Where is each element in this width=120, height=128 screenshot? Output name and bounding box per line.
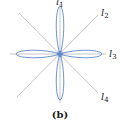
- label-l1: l1: [56, 0, 64, 9]
- rose-petals: [16, 6, 102, 100]
- label-l2: l2: [101, 7, 109, 20]
- rose-curve-figure: l1 l2 l3 l4 (b): [0, 0, 120, 128]
- label-l4: l4: [101, 91, 109, 104]
- line-labels: l1 l2 l3 l4: [56, 0, 117, 104]
- line-l2: [17, 15, 98, 97]
- line-l4: [19, 13, 98, 93]
- figure-caption: (b): [52, 109, 68, 120]
- label-l3: l3: [109, 48, 117, 61]
